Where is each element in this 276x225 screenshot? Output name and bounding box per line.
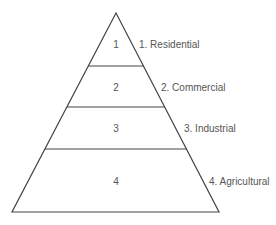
tier-number-4: 4 [113,176,119,187]
tier-label-residential: 1. Residential [139,39,200,50]
tier-label-industrial: 3. Industrial [184,123,236,134]
tier-number-2: 2 [113,82,119,93]
tier-number-1: 1 [113,39,119,50]
pyramid-diagram [0,0,276,225]
tier-label-agricultural: 4. Agricultural [209,176,270,187]
tier-label-commercial: 2. Commercial [161,82,225,93]
tier-number-3: 3 [113,123,119,134]
